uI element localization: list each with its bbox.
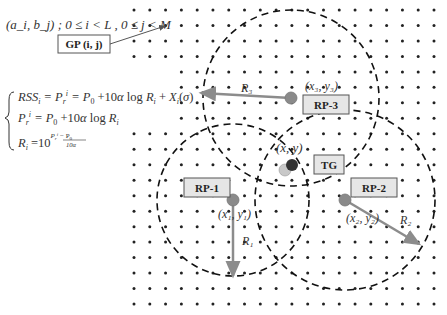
grid-dot bbox=[259, 194, 262, 197]
grid-dot bbox=[196, 272, 199, 275]
grid-dot bbox=[322, 70, 325, 73]
grid-dot bbox=[211, 225, 214, 228]
grid-dot bbox=[369, 70, 372, 73]
grid-dot bbox=[322, 117, 325, 120]
grid-dot bbox=[196, 210, 199, 213]
grid-dot bbox=[306, 39, 309, 42]
grid-dot bbox=[290, 303, 293, 306]
grid-dot bbox=[369, 148, 372, 151]
grid-dot bbox=[275, 132, 278, 135]
grid-dot bbox=[290, 194, 293, 197]
grid-dot bbox=[180, 132, 183, 135]
grid-dot bbox=[243, 272, 246, 275]
grid-dot bbox=[259, 303, 262, 306]
grid-dot bbox=[417, 287, 420, 290]
grid-dot bbox=[322, 210, 325, 213]
grid-dot bbox=[433, 256, 436, 259]
grid-dot bbox=[354, 272, 357, 275]
grid-dot bbox=[243, 132, 246, 135]
grid-dot bbox=[385, 9, 388, 12]
grid-dot bbox=[290, 179, 293, 182]
grid-dot bbox=[385, 256, 388, 259]
grid-dot bbox=[322, 179, 325, 182]
grid-dot bbox=[243, 194, 246, 197]
target-coordinate: (x, y) bbox=[276, 140, 303, 155]
grid-dot bbox=[385, 241, 388, 244]
target-label: TG bbox=[321, 159, 337, 171]
grid-dot bbox=[164, 132, 167, 135]
grid-dot bbox=[180, 272, 183, 275]
grid-dot bbox=[385, 55, 388, 58]
grid-dot bbox=[196, 163, 199, 166]
grid-dot bbox=[354, 86, 357, 89]
grid-dot bbox=[369, 272, 372, 275]
grid-dot bbox=[164, 179, 167, 182]
grid-dot bbox=[369, 24, 372, 27]
grid-dot bbox=[180, 9, 183, 12]
grid-dot bbox=[322, 39, 325, 42]
rp1-coordinate: (x₁, y₁) bbox=[218, 207, 251, 221]
grid-dot bbox=[417, 70, 420, 73]
grid-dot bbox=[417, 39, 420, 42]
grid-dot bbox=[385, 287, 388, 290]
grid-dot bbox=[211, 24, 214, 27]
grid-dot bbox=[275, 101, 278, 104]
grid-dot bbox=[243, 9, 246, 12]
grid-dot bbox=[133, 179, 136, 182]
grid-dot bbox=[322, 132, 325, 135]
grid-dot bbox=[306, 132, 309, 135]
grid-dot bbox=[275, 194, 278, 197]
grid-dot bbox=[338, 148, 341, 151]
grid-dot bbox=[417, 303, 420, 306]
grid-dot bbox=[417, 55, 420, 58]
grid-dot bbox=[227, 39, 230, 42]
grid-dot bbox=[211, 287, 214, 290]
grid-dot bbox=[211, 163, 214, 166]
rp2-label: RP-2 bbox=[362, 182, 386, 194]
grid-dot bbox=[369, 303, 372, 306]
grid-dot bbox=[354, 39, 357, 42]
grid-dot bbox=[417, 272, 420, 275]
grid-dot bbox=[211, 148, 214, 151]
grid-dot bbox=[369, 117, 372, 120]
grid-dot bbox=[290, 86, 293, 89]
formula-rss: RSSi = Pri = P0 +10α log Ri + Xi(σ) bbox=[17, 89, 193, 106]
target-node bbox=[286, 159, 298, 171]
grid-point-label: GP (i, j) bbox=[58, 35, 110, 53]
grid-dot bbox=[385, 70, 388, 73]
grid-dot bbox=[354, 117, 357, 120]
grid-dot bbox=[227, 117, 230, 120]
grid-dot bbox=[290, 117, 293, 120]
grid-dot bbox=[354, 148, 357, 151]
grid-dot bbox=[322, 256, 325, 259]
grid-dot bbox=[433, 303, 436, 306]
grid-dot bbox=[148, 225, 151, 228]
grid-dot bbox=[338, 303, 341, 306]
grid-dot bbox=[211, 132, 214, 135]
grid-dot bbox=[306, 70, 309, 73]
grid-dot bbox=[164, 241, 167, 244]
grid-dot bbox=[148, 256, 151, 259]
grid-dot bbox=[338, 256, 341, 259]
grid-dot bbox=[417, 194, 420, 197]
grid-dot bbox=[306, 256, 309, 259]
grid-dot bbox=[401, 70, 404, 73]
grid-dot bbox=[196, 70, 199, 73]
grid-dot bbox=[275, 303, 278, 306]
grid-dot bbox=[227, 303, 230, 306]
grid-dot bbox=[227, 132, 230, 135]
grid-dot bbox=[243, 163, 246, 166]
grid-dot bbox=[243, 287, 246, 290]
grid-dot bbox=[164, 210, 167, 213]
grid-dot bbox=[180, 287, 183, 290]
grid-dot bbox=[338, 272, 341, 275]
grid-dot bbox=[385, 24, 388, 27]
grid-dot bbox=[354, 101, 357, 104]
trilateration-diagram: (a_i, b_j) ; 0 ≤ i < L , 0 ≤ j < M GP (i… bbox=[0, 0, 447, 315]
grid-dot bbox=[275, 210, 278, 213]
grid-dot bbox=[243, 148, 246, 151]
grid-dot bbox=[211, 303, 214, 306]
grid-dot bbox=[180, 70, 183, 73]
grid-dot bbox=[211, 256, 214, 259]
grid-dot bbox=[133, 163, 136, 166]
